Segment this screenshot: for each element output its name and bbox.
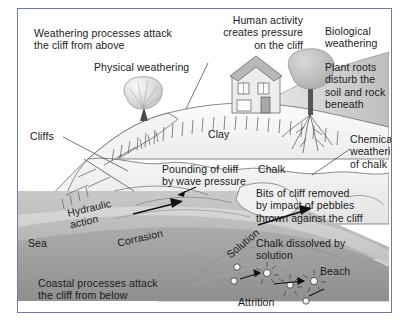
label-coastal-below: Coastal processes attack the cliff from …	[38, 277, 158, 302]
label-beach: Beach	[320, 265, 350, 277]
label-pounding: Pounding of cliff by wave pressure	[162, 163, 246, 188]
label-plant-roots: Plant roots disturb the soil and rock be…	[325, 61, 385, 111]
label-physical-weathering: Physical weathering	[94, 61, 189, 73]
label-cliffs: Cliffs	[30, 130, 54, 142]
diagram-frame: Weathering processes attack the cliff fr…	[17, 8, 392, 313]
label-biological-weathering: Biological weathering	[325, 25, 377, 50]
diagram-canvas: Weathering processes attack the cliff fr…	[0, 0, 406, 324]
label-bits-of-cliff: Bits of cliff removed by impact of pebbl…	[256, 187, 363, 224]
label-chalk: Chalk	[258, 163, 285, 175]
label-chemical-weathering: Chemical weathering of chalk	[350, 133, 392, 170]
label-clay: Clay	[208, 128, 229, 140]
label-sea: Sea	[28, 237, 47, 249]
label-human-activity: Human activity creates pressure on the c…	[193, 14, 303, 51]
label-attrition: Attrition	[238, 296, 275, 308]
label-chalk-dissolved: Chalk dissolved by solution	[256, 237, 345, 262]
label-weathering-above: Weathering processes attack the cliff fr…	[34, 27, 172, 52]
